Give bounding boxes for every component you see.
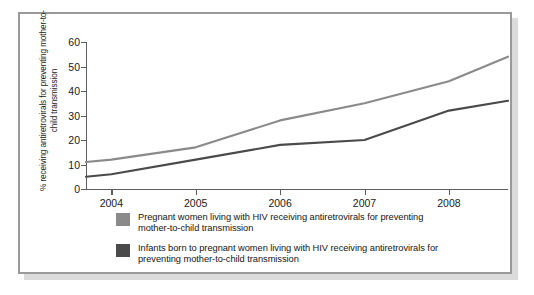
y-axis-tick [81,189,86,190]
y-axis-tick [81,91,86,92]
y-axis-tick [81,42,86,43]
chart-panel: % receiving antiretrovirals for preventi… [18,12,512,274]
legend-swatch-icon [116,244,130,257]
chart-legend: Pregnant women living with HIV receiving… [116,212,446,274]
x-axis-tick-label: 2007 [340,197,390,209]
y-axis-tick [81,67,86,68]
x-axis-tick [196,190,197,195]
legend-item: Infants born to pregnant women living wi… [116,243,446,265]
x-axis-tick [449,190,450,195]
x-axis-tick [365,190,366,195]
legend-swatch-icon [116,213,130,226]
series-line-1 [86,101,508,177]
y-axis-tick [81,165,86,166]
chart-figure: % receiving antiretrovirals for preventi… [0,0,534,295]
legend-item-label: Pregnant women living with HIV receiving… [138,212,446,234]
y-axis-tick [81,116,86,117]
x-axis-tick-label: 2008 [424,197,474,209]
y-axis-tick [81,140,86,141]
x-axis-tick-label: 2005 [171,197,221,209]
legend-item-label: Infants born to pregnant women living wi… [138,243,446,265]
x-axis-tick-label: 2006 [255,197,305,209]
x-axis-tick [111,190,112,195]
legend-item: Pregnant women living with HIV receiving… [116,212,446,234]
series-line-0 [86,57,508,162]
x-axis-tick [280,190,281,195]
x-axis-tick-label: 2004 [86,197,136,209]
